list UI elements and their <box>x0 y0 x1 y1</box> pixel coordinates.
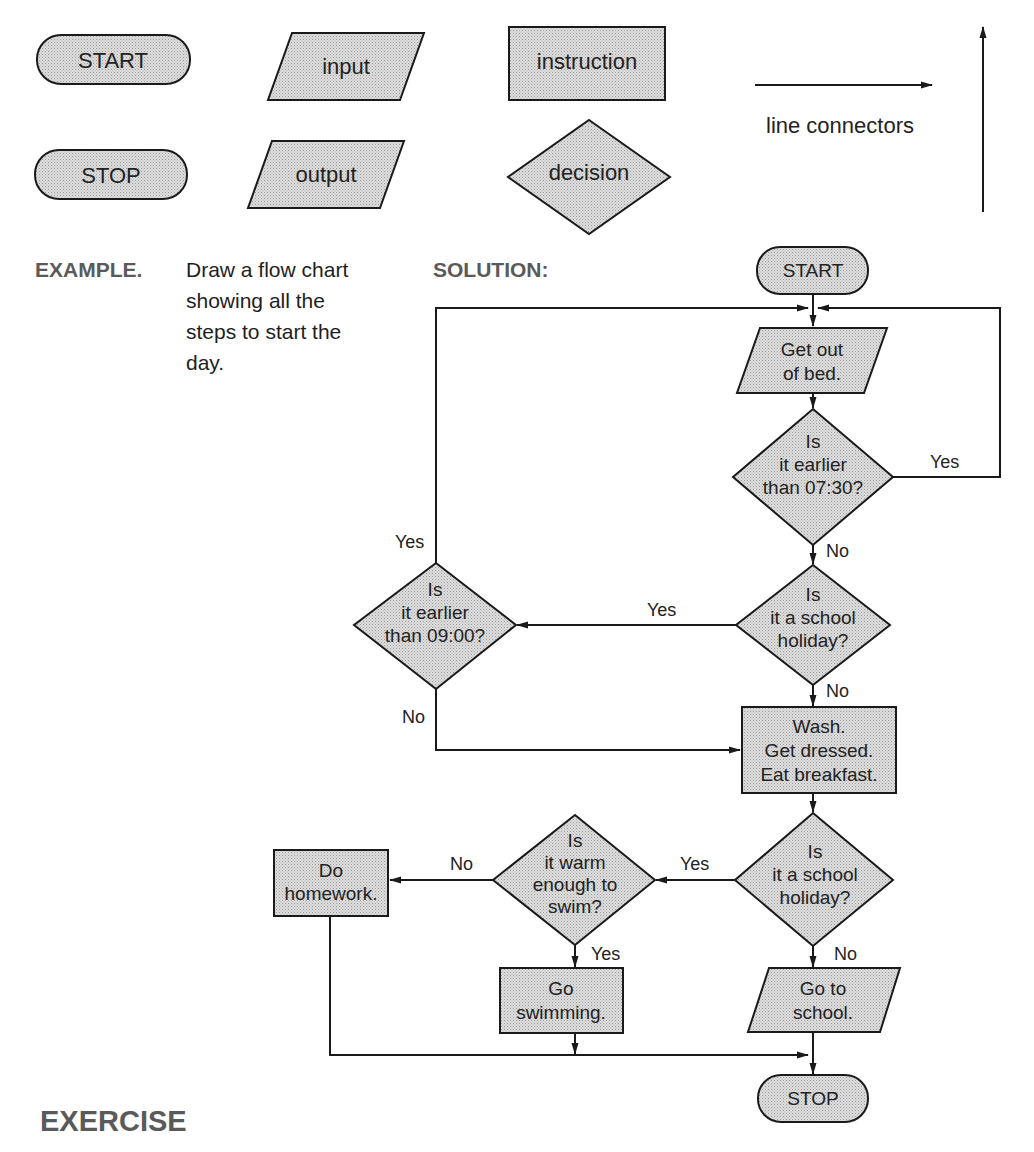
solution-heading: SOLUTION: <box>433 258 549 282</box>
svg-text:Is: Is <box>806 431 821 452</box>
svg-text:Go to: Go to <box>800 978 846 999</box>
legend-instruction-rect: instruction <box>509 27 665 100</box>
svg-text:it warm: it warm <box>544 852 605 873</box>
svg-text:STOP: STOP <box>81 163 141 188</box>
svg-text:holiday?: holiday? <box>778 630 849 651</box>
legend-stop-terminal: STOP <box>35 150 187 199</box>
svg-text:START: START <box>78 48 148 73</box>
svg-text:enough to: enough to <box>533 874 618 895</box>
svg-text:of bed.: of bed. <box>783 363 841 384</box>
edge-label-no: No <box>826 681 849 701</box>
svg-text:swim?: swim? <box>548 896 602 917</box>
svg-text:it a school: it a school <box>770 607 856 628</box>
flow-decision-school-holiday-2: Is it a school holiday? <box>735 813 893 946</box>
flow-go-to-school: Go to school. <box>748 968 900 1032</box>
edge-label-no: No <box>826 541 849 561</box>
svg-text:Is: Is <box>568 830 583 851</box>
edge-label-no: No <box>450 854 473 874</box>
flow-decision-earlier-0900: Is it earlier than 09:00? <box>354 563 516 689</box>
flow-do-homework: Do homework. <box>274 850 388 916</box>
svg-text:it earlier: it earlier <box>779 454 847 475</box>
flow-start-terminal: START <box>757 247 868 294</box>
legend-connectors-label: line connectors <box>766 113 914 139</box>
flow-decision-school-holiday-1: Is it a school holiday? <box>736 565 890 685</box>
example-line: Draw a flow chart <box>186 254 366 285</box>
svg-text:Do: Do <box>319 860 343 881</box>
svg-text:Go: Go <box>548 978 573 999</box>
flowchart-canvas: START STOP input output instruction deci… <box>0 0 1034 1152</box>
arrow-0900-yes-loop <box>436 308 808 563</box>
flow-go-swimming: Go swimming. <box>500 968 623 1033</box>
svg-text:Is: Is <box>428 579 443 600</box>
svg-text:Get out: Get out <box>781 339 844 360</box>
svg-text:school.: school. <box>793 1002 853 1023</box>
edge-label-yes: Yes <box>395 532 424 552</box>
flow-decision-earlier-0730: Is it earlier than 07:30? <box>733 409 893 545</box>
example-line: showing all the <box>186 285 366 316</box>
svg-text:output: output <box>295 162 356 187</box>
svg-text:START: START <box>783 260 844 281</box>
legend-decision-diamond: decision <box>508 120 670 234</box>
flow-wash-dress-eat: Wash. Get dressed. Eat breakfast. <box>742 707 896 793</box>
svg-text:Eat breakfast.: Eat breakfast. <box>760 764 877 785</box>
edge-label-no: No <box>402 707 425 727</box>
example-line: steps to start the <box>186 316 366 347</box>
svg-text:holiday?: holiday? <box>780 887 851 908</box>
svg-text:Is: Is <box>808 841 823 862</box>
svg-text:Get dressed.: Get dressed. <box>765 740 874 761</box>
svg-text:input: input <box>322 54 370 79</box>
svg-text:STOP: STOP <box>787 1088 838 1109</box>
svg-text:Is: Is <box>806 584 821 605</box>
exercise-heading: EXERCISE <box>40 1105 187 1138</box>
svg-text:instruction: instruction <box>537 49 637 74</box>
arrow-0900-no <box>436 689 740 750</box>
example-description: Draw a flow chart showing all the steps … <box>186 254 366 378</box>
svg-text:than 07:30?: than 07:30? <box>763 477 863 498</box>
flow-decision-warm-to-swim: Is it warm enough to swim? <box>493 815 655 945</box>
svg-text:decision: decision <box>549 160 630 185</box>
svg-text:than 09:00?: than 09:00? <box>385 625 485 646</box>
legend-input-parallelogram: input <box>268 33 424 100</box>
edge-label-no: No <box>834 944 857 964</box>
svg-text:Wash.: Wash. <box>792 716 845 737</box>
edge-label-yes: Yes <box>680 854 709 874</box>
legend-output-parallelogram: output <box>248 141 404 208</box>
flow-stop-terminal: STOP <box>758 1075 868 1122</box>
edge-label-yes: Yes <box>930 452 959 472</box>
edge-label-yes: Yes <box>591 944 620 964</box>
edge-label-yes: Yes <box>647 600 676 620</box>
svg-text:it earlier: it earlier <box>401 602 469 623</box>
svg-text:swimming.: swimming. <box>516 1002 606 1023</box>
legend-start-terminal: START <box>37 35 190 84</box>
example-line: day. <box>186 347 366 378</box>
example-heading: EXAMPLE. <box>35 258 142 282</box>
svg-text:it a school: it a school <box>772 864 858 885</box>
svg-text:homework.: homework. <box>285 883 378 904</box>
flow-get-out-of-bed: Get out of bed. <box>737 328 887 393</box>
